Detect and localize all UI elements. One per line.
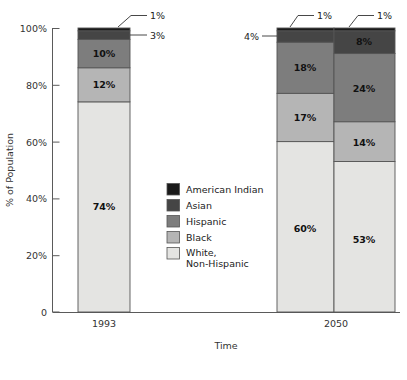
y-tick-label-60: 60%	[26, 137, 47, 148]
bar-segment-american-indian	[334, 28, 395, 31]
bar-1993: 74% 12% 10%	[78, 28, 130, 312]
legend-label-asian: Asian	[186, 200, 212, 211]
bar-label-hispanic: 24%	[353, 83, 376, 94]
y-tick-label-0: 0	[41, 307, 47, 318]
bar-segment-asian	[78, 31, 130, 40]
bar-label-black: 14%	[353, 137, 376, 148]
bar-label-black: 12%	[93, 79, 116, 90]
callout-label-american-indian: 1%	[150, 10, 165, 21]
bar-label-hispanic: 18%	[294, 62, 317, 73]
stacked-bar-chart: 100% 80% 60% 40% 20% 0 % of Population 1…	[0, 0, 407, 380]
bar-label-asian: 8%	[356, 36, 373, 47]
legend-swatch-white-non-hispanic	[167, 248, 180, 260]
y-tick-label-20: 20%	[26, 250, 47, 261]
legend-swatch-american-indian	[167, 184, 180, 196]
bar-2050-b: 53% 14% 24% 8%	[334, 28, 395, 312]
legend-label-black: Black	[186, 232, 212, 243]
bar-label-white-non-hispanic: 74%	[93, 201, 116, 212]
legend-label-american-indian: American Indian	[186, 184, 264, 195]
bar-label-hispanic: 10%	[93, 48, 116, 59]
legend-swatch-hispanic	[167, 216, 180, 228]
bar-2050-a: 60% 17% 18%	[277, 28, 334, 312]
y-tick-label-40: 40%	[26, 193, 47, 204]
x-axis-title: Time	[213, 340, 237, 351]
bar-segment-american-indian	[78, 28, 130, 31]
y-axis-title: % of Population	[4, 133, 15, 207]
x-tick-label-2050: 2050	[324, 318, 348, 329]
callout-label-asian: 3%	[150, 30, 165, 41]
x-tick-label-1993: 1993	[92, 318, 116, 329]
legend-label-hispanic: Hispanic	[186, 216, 226, 227]
callout-label-asian: 4%	[244, 31, 259, 42]
legend-swatch-asian	[167, 200, 180, 212]
bar-segment-asian	[277, 31, 334, 42]
bar-segment-american-indian	[277, 28, 334, 31]
y-tick-label-100: 100%	[20, 23, 47, 34]
legend-swatch-black	[167, 232, 180, 244]
legend-label-white-non-hispanic: White,	[186, 247, 217, 258]
callout-label-american-indian: 1%	[377, 10, 392, 21]
bar-label-black: 17%	[294, 112, 317, 123]
legend-label-white-non-hispanic-line2: Non-Hispanic	[186, 258, 249, 269]
bar-label-white-non-hispanic: 53%	[353, 234, 376, 245]
y-tick-label-80: 80%	[26, 80, 47, 91]
bar-label-white-non-hispanic: 60%	[294, 223, 317, 234]
callout-label-american-indian: 1%	[317, 10, 332, 21]
